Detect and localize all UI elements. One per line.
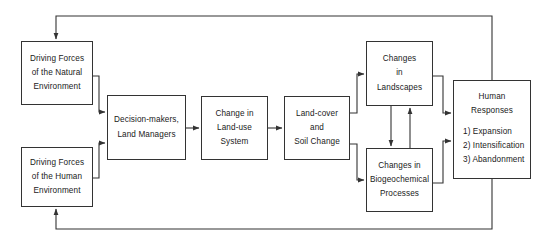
node-text-line: Changes in bbox=[378, 159, 420, 173]
node-text-line: Driving Forces bbox=[30, 156, 84, 170]
node-text-line: in bbox=[396, 66, 403, 80]
decision-makers-box[interactable]: Decision-makers, Land Managers bbox=[107, 95, 186, 160]
node-text-line: Driving Forces bbox=[30, 52, 84, 66]
changes-in-biogeochemical-processes-box[interactable]: Changes in Biogeochemical Processes bbox=[366, 148, 433, 212]
human-response-item: 1) Expansion bbox=[463, 125, 530, 139]
change-in-land-use-system-box[interactable]: Change in Land-use System bbox=[201, 96, 268, 160]
land-cover-and-soil-change-box[interactable]: Land-cover and Soil Change bbox=[284, 96, 350, 160]
flowchart-diagram: Driving Forces of the Natural Environmen… bbox=[0, 0, 551, 244]
driving-forces-natural-box[interactable]: Driving Forces of the Natural Environmen… bbox=[21, 41, 93, 105]
node-text-line: Land-use bbox=[217, 121, 252, 135]
node-text-line: Biogeochemical bbox=[370, 173, 429, 187]
human-responses-box[interactable]: Human Responses 1) Expansion 2) Intensif… bbox=[453, 80, 531, 179]
node-text-line: Land-cover bbox=[296, 107, 338, 121]
node-text-line: of the Human bbox=[32, 170, 82, 184]
driving-forces-human-box[interactable]: Driving Forces of the Human Environment bbox=[21, 147, 93, 207]
node-text-line: Responses bbox=[454, 104, 530, 118]
connector-land-cover-to-landscapes bbox=[350, 74, 364, 113]
node-text-line: of the Natural bbox=[32, 66, 83, 80]
human-response-item: 2) Intensification bbox=[463, 139, 530, 153]
node-text-line: System bbox=[221, 135, 249, 149]
connector-landscapes-to-human-responses bbox=[433, 76, 451, 113]
node-text-line: Decision-makers, bbox=[114, 113, 179, 127]
node-text-line: Soil Change bbox=[294, 135, 340, 149]
node-text-line: Processes bbox=[380, 187, 419, 201]
connector-land-cover-to-biogeochemical bbox=[350, 144, 364, 180]
changes-in-landscapes-box[interactable]: Changes in Landscapes bbox=[366, 41, 433, 106]
node-text-line: Changes bbox=[383, 52, 416, 66]
connector-human-to-decision-makers bbox=[93, 143, 105, 178]
node-text-line: Landscapes bbox=[377, 81, 422, 95]
human-responses-list: 1) Expansion 2) Intensification 3) Aband… bbox=[454, 125, 530, 167]
node-text-line: Change in bbox=[215, 107, 253, 121]
connector-natural-to-decision-makers bbox=[93, 76, 105, 112]
human-responses-title: Human Responses bbox=[454, 90, 530, 118]
node-text-line: Environment bbox=[33, 80, 80, 94]
human-response-item: 3) Abandonment bbox=[463, 153, 530, 167]
node-text-line: Human bbox=[454, 90, 530, 104]
connector-biogeochemical-to-human-responses bbox=[433, 141, 451, 183]
node-text-line: Land Managers bbox=[117, 128, 175, 142]
node-text-line: and bbox=[310, 121, 324, 135]
node-text-line: Environment bbox=[33, 184, 80, 198]
